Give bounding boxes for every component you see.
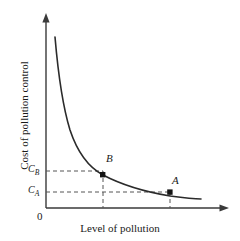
cost-curve bbox=[55, 37, 201, 199]
point-b-label: B bbox=[106, 153, 113, 164]
y-tick-label-ca-main: C bbox=[28, 184, 35, 195]
x-axis-title: Level of pollution bbox=[0, 223, 240, 234]
point-a-label: A bbox=[172, 175, 179, 186]
chart-plot-area bbox=[0, 0, 240, 241]
y-axis-arrow-icon bbox=[42, 13, 49, 23]
y-tick-label-ca: CA bbox=[28, 185, 39, 198]
origin-label: 0 bbox=[37, 211, 43, 222]
chart-figure: Cost of pollution control Level of pollu… bbox=[0, 0, 240, 241]
y-tick-label-ca-subscript: A bbox=[35, 189, 40, 198]
y-tick-label-cb-main: C bbox=[28, 163, 35, 174]
point-a-marker bbox=[167, 189, 172, 194]
y-tick-label-cb: CB bbox=[28, 164, 39, 177]
x-axis-arrow-icon bbox=[220, 204, 230, 211]
y-tick-label-cb-subscript: B bbox=[35, 168, 40, 177]
point-b-marker bbox=[100, 172, 105, 177]
